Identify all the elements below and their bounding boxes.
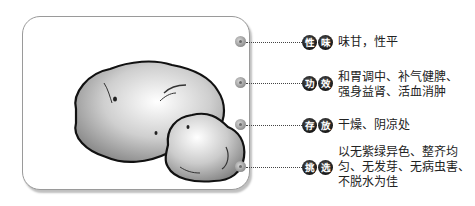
label-badge: 挑 选 xyxy=(302,160,333,175)
dotted-leader-line xyxy=(246,42,302,43)
badge-char: 性 xyxy=(302,35,317,50)
badge-char: 功 xyxy=(302,76,317,91)
badge-char: 选 xyxy=(318,160,333,175)
bullet-dot-icon xyxy=(235,119,246,130)
row-text: 味甘，性平 xyxy=(338,35,473,50)
text-line: 以无紫绿异色、整齐均 xyxy=(338,145,473,160)
dotted-leader-line xyxy=(246,83,302,84)
label-badge: 功 效 xyxy=(302,76,333,91)
bullet-dot-icon xyxy=(235,36,246,47)
text-line: 和胃调中、补气健脾、 xyxy=(338,70,473,85)
potato-illustration-icon xyxy=(68,57,248,187)
text-line: 干燥、阴凉处 xyxy=(338,118,473,133)
bullet-dot-icon xyxy=(235,161,246,172)
badge-char: 味 xyxy=(318,35,333,50)
label-badge: 存 放 xyxy=(302,118,333,133)
dotted-leader-line xyxy=(246,167,302,168)
row-text: 干燥、阴凉处 xyxy=(338,118,473,133)
text-line: 不脱水为佳 xyxy=(338,175,473,190)
dotted-leader-line xyxy=(246,125,302,126)
text-line: 味甘，性平 xyxy=(338,35,473,50)
label-badge: 性 味 xyxy=(302,35,333,50)
badge-char: 存 xyxy=(302,118,317,133)
badge-char: 放 xyxy=(318,118,333,133)
text-line: 匀、无发芽、无病虫害、 xyxy=(338,160,473,175)
bullet-dot-icon xyxy=(235,77,246,88)
row-text: 以无紫绿异色、整齐均 匀、无发芽、无病虫害、 不脱水为佳 xyxy=(338,145,473,190)
image-card xyxy=(22,16,250,190)
badge-char: 效 xyxy=(318,76,333,91)
row-text: 和胃调中、补气健脾、 强身益肾、活血消肿 xyxy=(338,70,473,100)
badge-char: 挑 xyxy=(302,160,317,175)
text-line: 强身益肾、活血消肿 xyxy=(338,85,473,100)
